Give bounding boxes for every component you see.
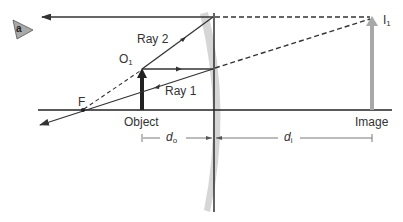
object-point-label: O1 bbox=[119, 53, 133, 67]
ray1-label: Ray 1 bbox=[165, 85, 196, 97]
image-point-subscript: 1 bbox=[386, 19, 390, 28]
ray1-label-text: Ray 1 bbox=[165, 84, 196, 98]
di-label: di bbox=[284, 131, 292, 145]
focal-point-letter: F bbox=[78, 95, 85, 109]
object-point-subscript: 1 bbox=[128, 58, 132, 67]
object-point-letter: O bbox=[119, 52, 128, 66]
do-label: do bbox=[166, 131, 177, 145]
do-letter: d bbox=[166, 130, 173, 144]
ray1-virtual-extension bbox=[215, 19, 370, 68]
mirror-ray-diagram bbox=[0, 0, 403, 222]
concave-mirror-shape bbox=[200, 12, 221, 212]
image-label: Image bbox=[355, 116, 388, 128]
panel-label: a bbox=[16, 23, 22, 34]
di-letter: d bbox=[284, 130, 291, 144]
ray2-label-text: Ray 2 bbox=[137, 32, 168, 46]
image-point-label: I1 bbox=[383, 14, 391, 28]
object-label-text: Object bbox=[124, 115, 159, 129]
ray2-label: Ray 2 bbox=[137, 33, 168, 45]
focal-point-label: F bbox=[78, 96, 85, 108]
di-subscript: i bbox=[291, 136, 293, 145]
image-label-text: Image bbox=[355, 115, 388, 129]
ray1-incident-arrow-icon bbox=[176, 67, 182, 72]
object-label: Object bbox=[124, 116, 159, 128]
focal-construction-line bbox=[84, 71, 140, 109]
do-subscript: o bbox=[173, 136, 177, 145]
